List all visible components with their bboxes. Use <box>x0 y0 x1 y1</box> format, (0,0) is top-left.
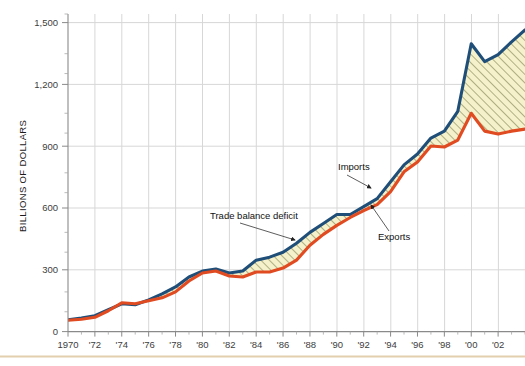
x-tick-label: '74 <box>116 339 128 350</box>
trade-balance-chart: 1,500 1,200 900 600 300 0 BILLIONS OF DO… <box>0 0 525 366</box>
x-tick-label: '00 <box>465 339 477 350</box>
x-tick-label: '96 <box>411 339 423 350</box>
exports-annotation-label: Exports <box>378 231 410 242</box>
x-tick-label: '82 <box>223 339 235 350</box>
x-tick-labels: 1970'72'74'76'78'80'82'84'86'88'90'92'94… <box>57 339 504 350</box>
x-tick-label: '92 <box>358 339 370 350</box>
y-tick-label: 600 <box>42 202 58 213</box>
x-tick-label: '90 <box>331 339 343 350</box>
imports-annotation-label: Imports <box>338 161 370 172</box>
x-tick-label: '88 <box>304 339 316 350</box>
y-tick-label: 300 <box>42 264 58 275</box>
x-tick-label: '02 <box>492 339 504 350</box>
y-tick-label: 1,500 <box>34 17 58 28</box>
x-tick-label: '78 <box>169 339 181 350</box>
x-tick-label: 1970 <box>57 339 78 350</box>
x-tick-label: '84 <box>250 339 262 350</box>
y-tick-label: 900 <box>42 141 58 152</box>
x-tick-label: '98 <box>438 339 450 350</box>
chart-background <box>0 0 525 366</box>
x-tick-label: '80 <box>196 339 208 350</box>
x-tick-label: '76 <box>142 339 154 350</box>
y-tick-label: 1,200 <box>34 79 58 90</box>
y-tick-label: 0 <box>53 326 58 337</box>
x-tick-label: '94 <box>384 339 396 350</box>
x-tick-label: '86 <box>277 339 289 350</box>
trade-deficit-annotation-label: Trade balance deficit <box>210 210 298 221</box>
x-tick-label: '72 <box>89 339 101 350</box>
y-axis-title: BILLIONS OF DOLLARS <box>17 120 28 232</box>
